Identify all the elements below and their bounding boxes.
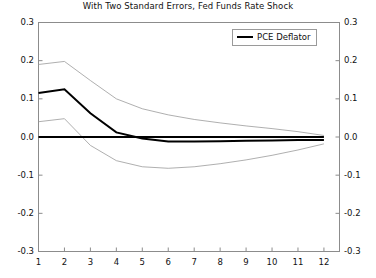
x-axis-ticks	[39, 248, 324, 252]
y-tick-label-left: 0.3	[2, 18, 34, 27]
x-tick-label: 3	[80, 258, 100, 267]
y-tick-label-right: 0.0	[344, 133, 376, 142]
series-line	[39, 119, 324, 169]
y-tick-label-left: -0.3	[2, 247, 34, 256]
series-line	[39, 89, 324, 141]
x-tick-label: 4	[106, 258, 126, 267]
data-series	[39, 61, 324, 168]
plot-area	[0, 0, 376, 278]
x-tick-label: 1	[29, 258, 49, 267]
chart-container: With Two Standard Errors, Fed Funds Rate…	[0, 0, 376, 278]
y-tick-label-left: 0.2	[2, 56, 34, 65]
legend-entry-label: PCE Deflator	[257, 32, 311, 42]
legend[interactable]: PCE Deflator	[232, 29, 317, 46]
x-tick-label: 11	[288, 258, 308, 267]
x-tick-label: 10	[262, 258, 282, 267]
x-tick-label: 9	[236, 258, 256, 267]
x-tick-label: 2	[54, 258, 74, 267]
y-tick-label-right: -0.1	[344, 171, 376, 180]
x-tick-label: 12	[314, 258, 334, 267]
series-line	[39, 61, 324, 135]
y-tick-label-left: -0.1	[2, 171, 34, 180]
x-tick-label: 6	[158, 258, 178, 267]
y-tick-label-right: -0.2	[344, 209, 376, 218]
x-tick-label: 5	[132, 258, 152, 267]
y-tick-label-right: -0.3	[344, 247, 376, 256]
y-tick-label-left: 0.0	[2, 133, 34, 142]
y-tick-label-right: 0.3	[344, 18, 376, 27]
x-tick-label: 7	[184, 258, 204, 267]
y-tick-label-left: -0.2	[2, 209, 34, 218]
y-tick-label-right: 0.1	[344, 94, 376, 103]
legend-line-swatch-icon	[237, 36, 253, 38]
y-tick-label-left: 0.1	[2, 94, 34, 103]
y-tick-label-right: 0.2	[344, 56, 376, 65]
x-tick-label: 8	[210, 258, 230, 267]
